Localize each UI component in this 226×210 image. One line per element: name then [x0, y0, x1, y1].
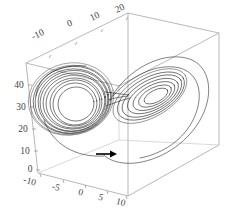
z-tick-label-1: 30: [16, 102, 26, 112]
tick-y--10: [49, 55, 51, 58]
x-tick-label-2: 0: [77, 187, 84, 198]
z-axis-tick-labels: 40 30 20 10 0: [14, 80, 32, 174]
y-axis-tick-labels: -10 0 10 20: [30, 2, 127, 42]
box-edge-left-vertical: [26, 63, 38, 173]
tick-x--10: [40, 174, 41, 177]
lorenz-attractor-plot: -10 0 10 20 40 30 20 10 0 -10 -5 0 5 10: [0, 0, 226, 210]
z-tick-label-2: 20: [18, 124, 28, 134]
tick-x--5: [63, 180, 64, 183]
plot-canvas: -10 0 10 20 40 30 20 10 0 -10 -5 0 5 10: [0, 0, 226, 210]
box-edge-bottom-back-right: [128, 145, 219, 196]
left-lobe-ring-2: [50, 80, 99, 128]
x-tick-label-3: 5: [97, 192, 104, 203]
z-tick-label-4: 0: [28, 164, 33, 174]
box-edge-bottom-back-left: [38, 140, 119, 173]
x-tick-label-1: -5: [51, 181, 61, 193]
z-tick-label-3: 10: [20, 146, 30, 156]
y-tick-label-2: 10: [88, 10, 101, 23]
x-tick-label-4: 10: [115, 196, 127, 208]
box-edge-bottom-back-diagonal: [119, 140, 219, 145]
box-edge-top-back-right: [128, 13, 219, 33]
y-tick-label-3: 20: [113, 2, 126, 15]
y-tick-label-0: -10: [30, 27, 46, 42]
x-tick-label-0: -10: [22, 175, 37, 188]
tick-y-0: [75, 42, 77, 45]
tick-y-10: [101, 29, 103, 32]
z-tick-label-0: 40: [14, 80, 24, 90]
right-lobe-ring-2: [135, 80, 175, 111]
lorenz-trajectory-curve: [21, 55, 208, 163]
y-tick-label-1: 0: [65, 18, 74, 29]
left-lobe-ring-1: [56, 85, 96, 124]
outer-sweep-loop-right: [104, 57, 209, 163]
tick-x-5: [107, 191, 108, 194]
